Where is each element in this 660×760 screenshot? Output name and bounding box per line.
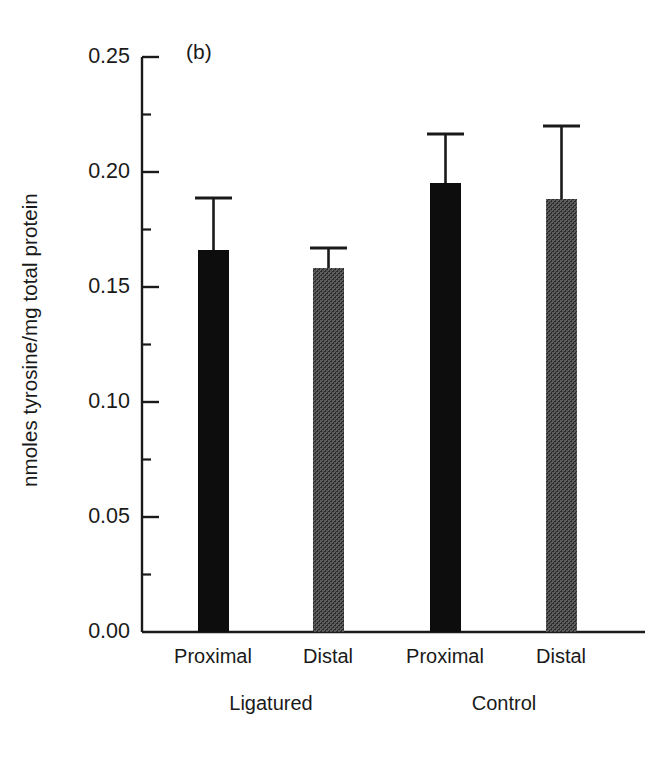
bar-control-distal [543, 126, 580, 632]
x-tick-label-ligatured-distal: Distal [303, 645, 353, 668]
y-axis-minor-ticks [142, 115, 151, 575]
bar-chart-figure: nmoles tyrosine/mg total protein (b) 0.2… [0, 0, 660, 760]
group-label-ligatured: Ligatured [229, 692, 312, 715]
x-tick-label-control-distal: Distal [536, 645, 586, 668]
bar-ligatured-distal [310, 248, 347, 632]
y-axis-major-ticks [142, 57, 159, 517]
bar-ligatured-proximal [195, 198, 232, 632]
x-tick-label-control-proximal: Proximal [406, 645, 484, 668]
x-tick-label-ligatured-proximal: Proximal [174, 645, 252, 668]
group-label-control: Control [472, 692, 536, 715]
bar-control-proximal [427, 134, 464, 632]
